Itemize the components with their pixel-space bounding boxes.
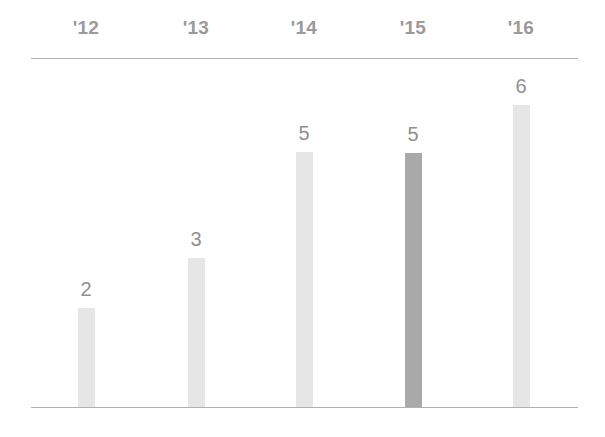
bar-group-2: 5 [274,58,334,407]
bar-group-0: 2 [56,58,116,407]
bar-group-3: 5 [383,58,443,407]
x-tick-label-2: '14 [291,18,317,37]
bar-1 [188,258,205,407]
bar-2 [296,152,313,407]
bar-0 [78,308,95,407]
bar-value-label-4: 6 [515,76,526,96]
plot-area: 2 3 5 5 6 [0,58,605,407]
bar-value-label-3: 5 [407,124,418,144]
bar-value-label-2: 5 [298,123,309,143]
bar-value-label-1: 3 [190,229,201,249]
bar-value-label-0: 2 [80,279,91,299]
x-tick-label-4: '16 [508,18,534,37]
x-tick-label-0: '12 [73,18,99,37]
x-axis-tick-labels: '12 '13 '14 '15 '16 [0,18,605,48]
x-tick-label-1: '13 [183,18,209,37]
x-tick-label-3: '15 [400,18,426,37]
bar-group-1: 3 [166,58,226,407]
bar-chart: '12 '13 '14 '15 '16 2 3 5 5 6 [0,0,605,437]
bar-4 [513,105,530,407]
bar-3-highlighted [405,153,422,407]
bar-group-4: 6 [491,58,551,407]
baseline-axis [31,407,578,408]
